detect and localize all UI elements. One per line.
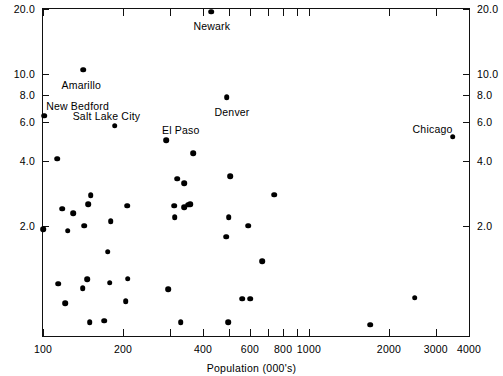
x-axis-title: Population (000's) — [207, 362, 297, 374]
data-point[interactable] — [172, 214, 178, 220]
x-axis-tick-top — [250, 9, 251, 16]
data-point[interactable] — [88, 193, 94, 199]
data-point-denver[interactable] — [224, 94, 230, 100]
data-point[interactable] — [412, 295, 418, 301]
data-point[interactable] — [181, 204, 187, 210]
y-axis-tick-label-left: 4.0 — [20, 155, 35, 167]
x-axis-tick-label: 3000 — [424, 343, 448, 355]
data-point-amarillo[interactable] — [81, 67, 87, 73]
data-point[interactable] — [272, 192, 278, 198]
data-point-el-paso[interactable] — [163, 138, 169, 144]
x-axis-tick-top — [469, 9, 470, 16]
x-axis-tick-top — [170, 9, 171, 16]
x-axis-tick-top — [389, 9, 390, 16]
x-axis-tick-top — [283, 9, 284, 16]
x-axis-tick-label: 100 — [34, 343, 52, 355]
x-axis-tick-label: 1000 — [297, 343, 321, 355]
data-point-chicago[interactable] — [450, 134, 456, 140]
data-point[interactable] — [227, 174, 233, 180]
y-axis-tick-right — [463, 226, 469, 227]
x-axis-tick — [43, 329, 44, 336]
x-axis-tick-top — [297, 9, 298, 16]
data-point[interactable] — [85, 201, 91, 207]
data-point-label-denver: Denver — [215, 106, 250, 118]
data-point-label-el-paso: El Paso — [162, 124, 200, 136]
x-axis-tick — [297, 329, 298, 336]
data-point[interactable] — [54, 156, 60, 162]
data-point[interactable] — [174, 176, 180, 182]
y-axis-tick-label-left: 10.0 — [14, 68, 35, 80]
x-axis-tick — [203, 329, 204, 336]
data-point[interactable] — [108, 218, 114, 224]
data-point[interactable] — [187, 201, 193, 207]
x-axis-tick-label: 2000 — [377, 343, 401, 355]
data-point[interactable] — [178, 319, 184, 325]
x-axis-tick — [123, 329, 124, 336]
y-axis-tick-label-right: 2.0 — [477, 220, 492, 232]
x-axis-tick-label: 400 — [194, 343, 212, 355]
data-point[interactable] — [245, 223, 251, 229]
data-point[interactable] — [107, 280, 113, 286]
x-axis-tick — [436, 329, 437, 336]
x-axis-tick — [389, 329, 390, 336]
data-point-label-chicago: Chicago — [413, 123, 453, 135]
data-point[interactable] — [182, 180, 188, 186]
y-axis-tick-right — [463, 95, 469, 96]
x-axis-tick-label: 4000 — [457, 343, 481, 355]
x-axis-tick-top — [229, 9, 230, 16]
data-point[interactable] — [171, 203, 177, 209]
y-axis-tick-left — [43, 74, 49, 75]
x-axis-tick-top — [203, 9, 204, 16]
x-axis-tick — [170, 329, 171, 336]
data-point[interactable] — [226, 319, 232, 325]
y-axis-tick-right — [463, 74, 469, 75]
data-point[interactable] — [101, 318, 107, 324]
x-axis-tick-top — [268, 9, 269, 16]
data-point[interactable] — [247, 296, 253, 302]
y-axis-tick-label-right: 4.0 — [477, 155, 492, 167]
data-point[interactable] — [166, 286, 172, 292]
data-point[interactable] — [62, 300, 68, 306]
data-point[interactable] — [223, 234, 229, 240]
data-point[interactable] — [105, 249, 111, 255]
data-point-new-bedford[interactable] — [41, 113, 47, 119]
data-point[interactable] — [367, 322, 373, 328]
data-point[interactable] — [239, 296, 245, 302]
data-point-salt-lake-city[interactable] — [112, 123, 118, 129]
data-point[interactable] — [85, 277, 91, 283]
data-point[interactable] — [40, 226, 46, 232]
y-axis-tick-label-right: 10.0 — [477, 68, 498, 80]
data-point[interactable] — [65, 228, 71, 234]
x-axis-tick — [268, 329, 269, 336]
x-axis-tick — [229, 329, 230, 336]
x-axis-tick — [283, 329, 284, 336]
y-axis-tick-label-left: 20.0 — [14, 3, 35, 15]
data-point-label-salt-lake-city: Salt Lake City — [73, 110, 141, 122]
x-axis-tick-label: 200 — [114, 343, 132, 355]
data-point[interactable] — [82, 223, 88, 229]
x-axis-tick — [309, 329, 310, 336]
y-axis-tick-left — [43, 122, 49, 123]
data-point[interactable] — [80, 285, 86, 291]
y-axis-tick-label-right: 6.0 — [477, 116, 492, 128]
data-point[interactable] — [124, 203, 130, 209]
data-point-newark[interactable] — [209, 9, 215, 15]
data-point[interactable] — [191, 150, 197, 156]
data-point[interactable] — [125, 276, 131, 282]
data-point[interactable] — [71, 210, 77, 216]
y-axis-tick-left — [43, 95, 49, 96]
x-axis-tick — [250, 329, 251, 336]
data-point[interactable] — [55, 281, 61, 287]
data-point[interactable] — [59, 206, 65, 212]
x-axis-tick-top — [309, 9, 310, 16]
y-axis-tick-label-right: 8.0 — [477, 89, 492, 101]
data-point-label-amarillo: Amarillo — [61, 79, 101, 91]
x-axis-tick-top — [43, 9, 44, 16]
x-axis-tick-label: 600 — [241, 343, 259, 355]
y-axis-tick-right — [463, 122, 469, 123]
data-point[interactable] — [260, 259, 266, 265]
x-axis-tick — [469, 329, 470, 336]
data-point[interactable] — [123, 298, 129, 304]
data-point[interactable] — [226, 214, 232, 220]
data-point[interactable] — [87, 319, 93, 325]
